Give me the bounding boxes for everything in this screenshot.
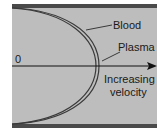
vessel-wall-top [12,4,157,8]
axis-label-line2: velocity [110,86,147,98]
vessel-wall-bottom [12,124,157,128]
origin-label: 0 [15,53,21,65]
blood-label: Blood [113,19,141,31]
axis-label-line1: Increasing [104,73,155,85]
plasma-label: Plasma [118,41,155,53]
